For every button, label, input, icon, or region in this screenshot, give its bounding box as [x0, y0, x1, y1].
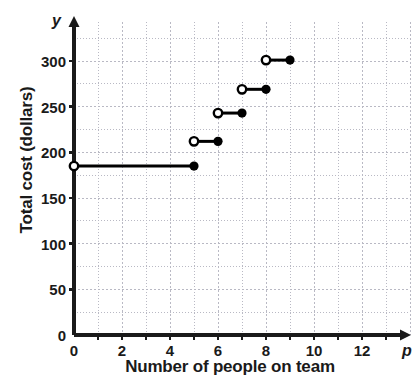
x-axis-title: Number of people on team: [60, 357, 400, 377]
x-axis-variable-label: p: [402, 342, 412, 360]
y-tick-label: 250: [28, 98, 66, 115]
x-axis-arrowhead: [400, 330, 411, 341]
y-tick-label: 200: [28, 144, 66, 161]
x-tick-label: 4: [166, 342, 174, 359]
step-function-chart: Total cost (dollars) Number of people on…: [0, 0, 414, 385]
x-tick-label: 12: [354, 342, 371, 359]
x-tick-label: 10: [306, 342, 323, 359]
open-endpoint-dot: [262, 56, 270, 64]
closed-endpoint-dot: [261, 85, 270, 94]
x-tick-label: 2: [118, 342, 126, 359]
data-series-step-function: [70, 55, 295, 170]
closed-endpoint-dot: [237, 108, 246, 117]
x-tick-label: 6: [214, 342, 222, 359]
open-endpoint-dot: [70, 162, 78, 170]
x-tick-label: 8: [262, 342, 270, 359]
y-axis-arrowhead: [69, 16, 80, 27]
x-tick-label: 0: [70, 342, 78, 359]
open-endpoint-dot: [238, 85, 246, 93]
y-tick-label: 150: [28, 190, 66, 207]
closed-endpoint-dot: [189, 161, 198, 170]
grid-minor: [74, 22, 410, 335]
y-tick-label: 0: [28, 327, 66, 344]
open-endpoint-dot: [190, 137, 198, 145]
open-endpoint-dot: [214, 109, 222, 117]
closed-endpoint-dot: [213, 137, 222, 146]
y-tick-label: 50: [28, 281, 66, 298]
y-tick-label: 300: [28, 53, 66, 70]
y-axis-variable-label: y: [52, 12, 61, 30]
axes: [69, 16, 412, 341]
closed-endpoint-dot: [285, 55, 294, 64]
y-tick-label: 100: [28, 235, 66, 252]
